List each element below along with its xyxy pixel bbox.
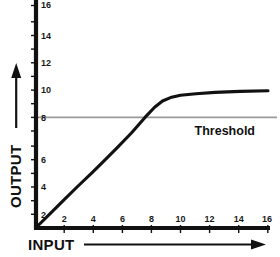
response-curve [36, 91, 268, 228]
x-axis-arrow-icon [84, 240, 266, 250]
x-tick-label-10: 10 [175, 214, 185, 224]
x-tick-label-2: 2 [62, 214, 67, 224]
y-axis-arrow-icon [11, 63, 21, 128]
chart-canvas: 2 4 6 8 10 12 14 16 2 4 6 8 10 12 14 16 … [0, 0, 280, 257]
chart-figure: 2 4 6 8 10 12 14 16 2 4 6 8 10 12 14 16 … [0, 0, 280, 257]
y-tick-label-6: 6 [41, 155, 46, 165]
x-tick-label-4: 4 [91, 214, 96, 224]
x-tick-label-14: 14 [234, 214, 244, 224]
x-tick-label-6: 6 [120, 214, 125, 224]
x-tick-label-16: 16 [262, 214, 272, 224]
y-tick-label-16: 16 [41, 0, 51, 10]
y-tick-label-4: 4 [41, 182, 46, 192]
threshold-label: Threshold [195, 124, 255, 138]
x-tick-label-12: 12 [205, 214, 215, 224]
y-tick-label-14: 14 [41, 31, 51, 41]
y-tick-label-10: 10 [41, 85, 51, 95]
y-tick-label-8: 8 [41, 113, 46, 123]
x-tick-label-8: 8 [149, 214, 154, 224]
y-axis-title: OUTPUT [7, 145, 24, 208]
x-axis-title: INPUT [28, 236, 75, 253]
y-tick-label-2: 2 [41, 210, 46, 220]
y-tick-label-12: 12 [41, 58, 51, 68]
